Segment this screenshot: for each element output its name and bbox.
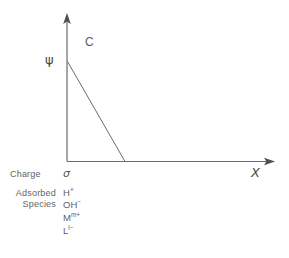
species-item-m: Mm+ xyxy=(63,213,80,223)
species-base-m: M xyxy=(63,212,71,223)
species-item-h: H+ xyxy=(63,188,74,198)
adsorbed-species-row-label: Adsorbed Species xyxy=(8,188,56,210)
y-axis-label: ψ xyxy=(45,53,54,66)
species-charge-m: m+ xyxy=(71,211,80,218)
adsorbed-species-label-line-1: Adsorbed xyxy=(8,188,56,199)
species-base-oh: OH xyxy=(63,199,77,210)
species-item-l: Ll− xyxy=(63,226,74,236)
species-charge-oh: − xyxy=(77,198,81,205)
species-base-h: H xyxy=(63,187,70,198)
charge-row-label: Charge xyxy=(10,170,41,179)
diagram-canvas xyxy=(0,0,289,258)
x-axis-label: X xyxy=(251,166,260,179)
y-axis xyxy=(63,13,71,162)
species-item-oh: OH− xyxy=(63,200,81,210)
curve-label-c: C xyxy=(85,36,94,48)
potential-curve xyxy=(68,62,126,162)
species-charge-l: l− xyxy=(68,224,73,231)
potential-decay-diagram: ψ X C Charge σ Adsorbed Species H+ OH− M… xyxy=(0,0,289,258)
x-axis xyxy=(67,158,275,166)
species-charge-h: + xyxy=(70,186,74,193)
adsorbed-species-label-line-2: Species xyxy=(8,199,56,210)
charge-value-sigma: σ xyxy=(63,168,70,179)
